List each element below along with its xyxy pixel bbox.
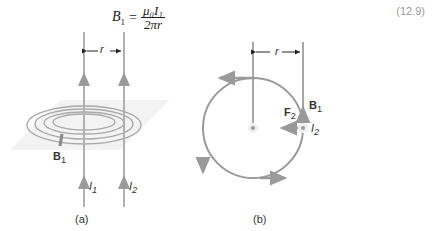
b1-label-a: B1 bbox=[53, 150, 66, 165]
b1-label-b: B1 bbox=[309, 99, 322, 114]
r-label-a: r bbox=[100, 43, 104, 55]
r-label-b: r bbox=[275, 45, 279, 57]
caption-a: (a) bbox=[75, 213, 88, 225]
caption-b: (b) bbox=[253, 213, 266, 225]
diagram-canvas bbox=[0, 0, 435, 231]
i2-label-b: I2 bbox=[311, 122, 319, 137]
wire-1-dot-icon bbox=[251, 126, 255, 130]
f2-label: F2 bbox=[284, 106, 296, 121]
i2-label-a: I2 bbox=[129, 180, 137, 195]
wire-2-dot-icon bbox=[301, 126, 305, 130]
i1-label: I1 bbox=[89, 180, 97, 195]
field-arrow-icon bbox=[60, 134, 62, 146]
